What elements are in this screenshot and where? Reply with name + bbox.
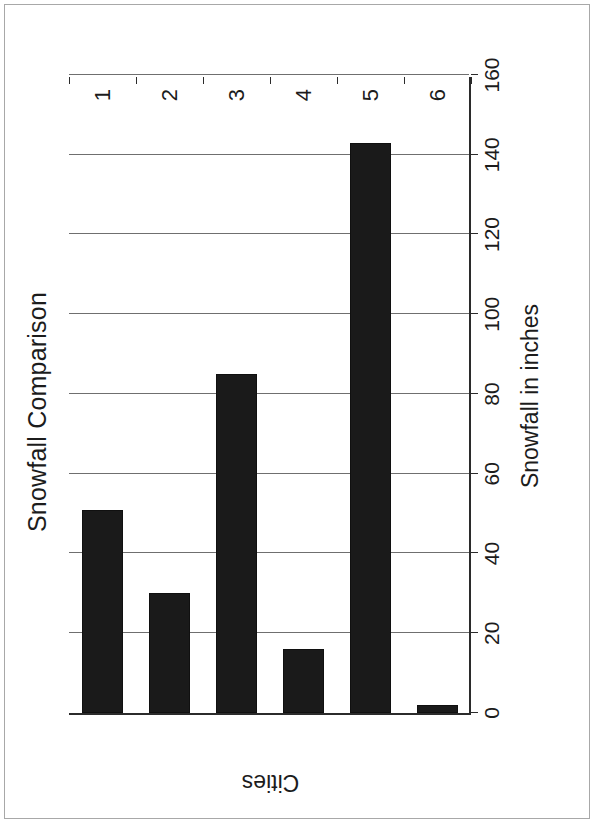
value-tick-label: 60 [480, 462, 504, 485]
category-tick [136, 77, 137, 84]
value-tick-label: 120 [480, 216, 504, 251]
gridline-160 [69, 74, 469, 75]
value-tick-label: 160 [480, 57, 504, 92]
category-tick-label: 5 [358, 89, 384, 101]
value-tick-40 [471, 552, 478, 553]
value-tick-120 [471, 233, 478, 234]
chart-title: Snowfall Comparison [23, 17, 52, 807]
value-tick-60 [471, 472, 478, 473]
category-axis-title-text: Cities [241, 768, 299, 795]
category-tick-label: 4 [291, 89, 317, 101]
category-tick [270, 77, 271, 84]
value-axis-title: Snowfall in inches [517, 77, 544, 715]
category-tick-label: 2 [157, 89, 183, 101]
value-tick-label: 0 [480, 707, 504, 719]
bar-chart: Snowfall Comparison 02040608010012014016… [17, 17, 577, 807]
category-tick-label: 6 [425, 89, 451, 101]
value-tick-0 [471, 712, 478, 713]
category-tick [404, 77, 405, 84]
value-tick-100 [471, 313, 478, 314]
value-tick-140 [471, 153, 478, 154]
plot-area: 020406080100120140160 123456 [69, 77, 471, 715]
category-axis-ticks: 123456 [69, 77, 469, 713]
category-tick-label: 3 [224, 89, 250, 101]
category-tick [69, 77, 70, 84]
category-tick [203, 77, 204, 84]
value-tick-80 [471, 393, 478, 394]
value-tick-label: 140 [480, 137, 504, 172]
category-tick [471, 77, 472, 84]
value-tick-20 [471, 632, 478, 633]
category-tick [337, 77, 338, 84]
category-tick-label: 1 [90, 89, 116, 101]
scanned-page-frame: Snowfall Comparison 02040608010012014016… [4, 4, 590, 819]
rotated-chart-container: Snowfall Comparison 02040608010012014016… [17, 17, 577, 807]
value-tick-label: 40 [480, 541, 504, 564]
value-tick-label: 80 [480, 382, 504, 405]
value-tick-label: 20 [480, 621, 504, 644]
value-tick-160 [471, 74, 478, 75]
category-axis-title: Cities [69, 767, 471, 797]
value-tick-label: 100 [480, 296, 504, 331]
